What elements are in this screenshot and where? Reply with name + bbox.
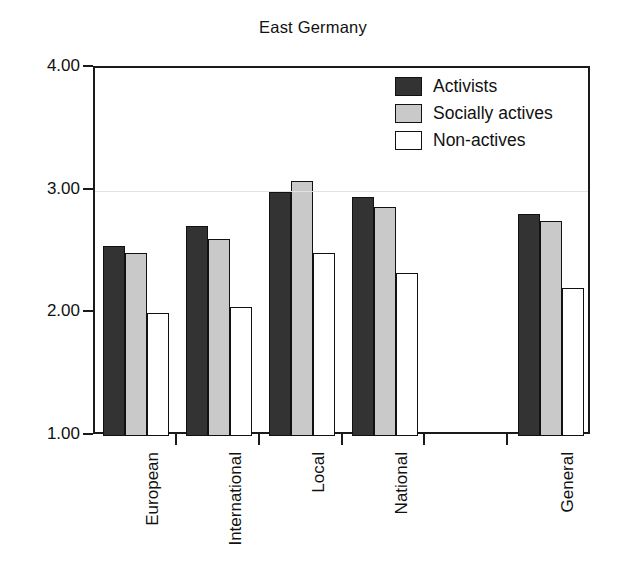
bar-general-activists [518,214,540,436]
y-tick-mark-3-00 [83,188,93,190]
bar-general-non-actives [562,288,584,436]
x-tick-mark-5 [506,434,508,445]
bar-european-non-actives [147,313,169,436]
legend-swatch-non-actives [395,131,422,150]
bar-national-socially-actives [374,207,396,436]
bar-national-non-actives [396,273,418,436]
legend-swatch-socially-actives [395,104,422,123]
y-tick-mark-1-00 [83,433,93,435]
x-category-label-local: Local [309,452,329,493]
y-tick-label-4-00: 4.00 [8,56,80,76]
y-tick-mark-4-00 [83,65,93,67]
legend-item-socially-actives: Socially actives [395,100,553,127]
y-tick-label-1-00: 1.00 [8,424,80,444]
legend-label-activists: Activists [433,76,497,97]
x-tick-mark-3 [341,434,343,445]
bar-international-non-actives [230,307,252,436]
legend-swatch-activists [395,77,422,96]
legend-item-activists: Activists [395,73,553,100]
y-axis: 1.002.003.004.00 [0,0,80,580]
chart-legend: ActivistsSocially activesNon-actives [389,68,563,160]
y-tick-mark-2-00 [83,310,93,312]
chart-figure: East Germany 1.002.003.004.00 EuropeanIn… [0,0,626,580]
x-tick-mark-4 [423,434,425,445]
bar-national-activists [352,197,374,436]
x-tick-mark-2 [258,434,260,445]
bar-european-activists [103,246,125,436]
x-category-label-european: European [143,452,163,526]
bar-local-activists [269,192,291,436]
x-category-label-international: International [226,452,246,546]
x-tick-mark-1 [175,434,177,445]
y-tick-label-3-00: 3.00 [8,179,80,199]
chart-title: East Germany [0,18,626,37]
bar-local-non-actives [313,253,335,436]
x-category-label-national: National [392,452,412,514]
legend-label-non-actives: Non-actives [433,130,525,151]
bar-international-socially-actives [208,239,230,436]
gridline-3-00 [95,191,588,192]
legend-label-socially-actives: Socially actives [433,103,553,124]
bar-european-socially-actives [125,253,147,436]
x-category-label-general: General [558,452,578,512]
bar-local-socially-actives [291,181,313,436]
legend-item-non-actives: Non-actives [395,127,553,154]
bar-international-activists [186,226,208,436]
bar-general-socially-actives [540,221,562,436]
y-tick-label-2-00: 2.00 [8,301,80,321]
